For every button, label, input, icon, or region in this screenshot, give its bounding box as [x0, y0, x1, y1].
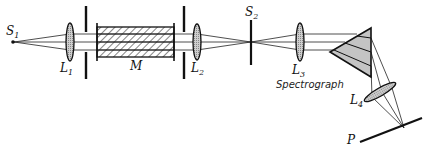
label-l1: L1	[59, 61, 73, 77]
lens-l3-icon	[296, 23, 304, 61]
label-m: M	[129, 59, 143, 73]
sample-cell-m	[97, 23, 174, 61]
plate-p-icon	[360, 118, 422, 142]
prism-icon	[330, 28, 371, 77]
label-l2: L2	[190, 61, 204, 77]
optical-setup-diagram: S1 L1 M L2 S2 L3 Spectrograph L4	[0, 0, 429, 151]
rays-through-slit	[197, 34, 300, 50]
label-l4: L4	[349, 93, 363, 109]
label-spectrograph: Spectrograph	[276, 79, 344, 90]
lens-l2-icon	[193, 24, 201, 60]
label-s2: S2	[245, 5, 258, 21]
source-s1-icon	[11, 40, 15, 44]
lens-l1-icon	[66, 23, 74, 61]
rays-to-plate	[371, 38, 404, 128]
label-s1: S1	[6, 24, 19, 40]
rays-source-to-l1	[14, 34, 70, 50]
label-l3: L3	[291, 63, 305, 79]
label-p: P	[346, 133, 356, 147]
